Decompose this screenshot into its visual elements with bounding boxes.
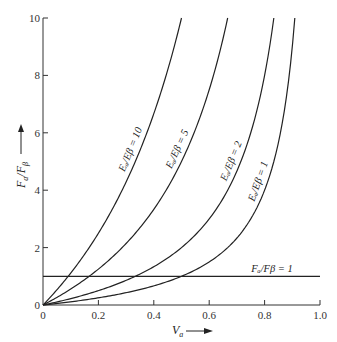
y-tick-label: 8 — [35, 69, 41, 81]
x-tick-label: 0 — [40, 309, 46, 321]
curve-label-5: Eₐ/Eβ = 5 — [163, 128, 191, 171]
tick-labels: 00.20.40.60.81.00246810 — [29, 12, 327, 321]
x-tick-label: 1.0 — [313, 309, 327, 321]
svg-text:Fa/Fβ: Fa/Fβ — [14, 162, 30, 189]
x-axis-title: Va — [172, 323, 213, 339]
curve-ratio-2 — [43, 18, 274, 305]
x-tick-label: 0.6 — [202, 309, 216, 321]
x-tick-label: 0.4 — [147, 309, 161, 321]
svg-text:Va: Va — [172, 323, 183, 339]
y-tick-label: 10 — [29, 12, 41, 24]
y-tick-label: 4 — [35, 184, 41, 196]
curve-label-1: Eₐ/Eβ = 1 — [245, 160, 270, 204]
curves — [43, 18, 320, 305]
x-tick-label: 0.8 — [258, 309, 272, 321]
y-tick-label: 0 — [35, 299, 41, 311]
y-tick-label: 6 — [35, 127, 41, 139]
x-tick-label: 0.2 — [92, 309, 106, 321]
curve-label-2: Eₐ/Eβ = 2 — [218, 139, 244, 183]
chart: 00.20.40.60.81.00246810 Eₐ/Eβ = 10Eₐ/Eβ … — [0, 0, 337, 342]
arrow-right-icon — [186, 328, 213, 334]
arrow-up-icon — [18, 124, 24, 154]
y-axis-title: Fa/Fβ — [14, 124, 30, 189]
curve-labels: Eₐ/Eβ = 10Eₐ/Eβ = 5Eₐ/Eβ = 2Eₐ/Eβ = 1Fₐ/… — [116, 125, 293, 274]
y-tick-label: 2 — [35, 242, 41, 254]
hline-label: Fₐ/Fβ = 1 — [250, 263, 293, 274]
